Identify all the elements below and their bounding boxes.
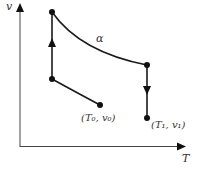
x-axis-arrow-icon bbox=[177, 143, 186, 151]
point-start bbox=[97, 102, 103, 108]
curve-alpha-label: α bbox=[96, 32, 104, 45]
y-axis-arrow-icon bbox=[16, 3, 24, 12]
point-top-left bbox=[49, 9, 55, 15]
axes: v T bbox=[6, 0, 191, 165]
end-point-label: (T₁, v₁) bbox=[151, 119, 186, 130]
arrow-up-icon bbox=[48, 38, 56, 47]
point-bottom-left bbox=[49, 76, 55, 82]
path-start-to-left bbox=[52, 79, 100, 105]
arrow-down-icon bbox=[143, 86, 151, 95]
x-axis-label: T bbox=[182, 152, 191, 165]
tv-diagram: v T α (T₀, v₀) (T₁, v₁) bbox=[0, 0, 197, 172]
point-end bbox=[144, 115, 150, 121]
point-right-top bbox=[144, 62, 150, 68]
start-point-label: (T₀, v₀) bbox=[81, 112, 116, 123]
y-axis-label: v bbox=[6, 0, 13, 13]
